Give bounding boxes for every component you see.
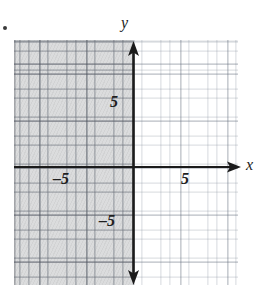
- x-axis-label: x: [246, 156, 253, 174]
- x-axis-tick-label-negative-5: –5: [53, 170, 69, 188]
- y-axis-tick-label-5: 5: [110, 93, 118, 111]
- coordinate-plane-figure: y x 5 –5 –5 5: [0, 0, 261, 295]
- x-axis-tick-label-5: 5: [181, 170, 189, 188]
- axes-group: [0, 0, 261, 295]
- y-axis-tick-label-negative-5: –5: [99, 212, 115, 230]
- y-axis-label: y: [121, 14, 128, 32]
